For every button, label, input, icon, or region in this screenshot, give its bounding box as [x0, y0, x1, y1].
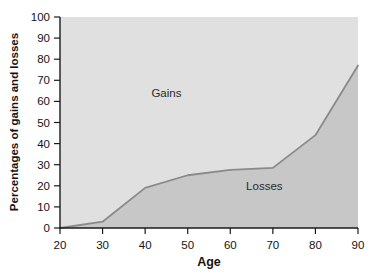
y-tick-label: 90: [37, 32, 50, 44]
chart-figure: 0102030405060708090100 2030405060708090 …: [0, 0, 383, 279]
x-tick-label: 90: [352, 239, 365, 251]
x-axis-title: Age: [197, 255, 221, 269]
plot-area: [60, 17, 358, 228]
x-tick-label: 50: [181, 239, 194, 251]
y-tick-label: 40: [37, 138, 50, 150]
gains-losses-area-chart: 0102030405060708090100 2030405060708090 …: [0, 0, 383, 279]
x-tick-label: 60: [224, 239, 237, 251]
region-label-losses: Losses: [246, 180, 283, 192]
y-tick-label: 70: [37, 74, 50, 86]
y-tick-label: 60: [37, 95, 50, 107]
x-tick-label: 20: [54, 239, 67, 251]
x-tick-label: 30: [96, 239, 109, 251]
y-tick-label: 30: [37, 159, 50, 171]
y-axis-title: Percentages of gains and losses: [8, 33, 20, 211]
y-tick-label: 10: [37, 201, 50, 213]
y-tick-label: 20: [37, 180, 50, 192]
x-tick-label: 70: [266, 239, 279, 251]
x-tick-label: 40: [139, 239, 152, 251]
y-tick-label: 80: [37, 53, 50, 65]
y-tick-label: 0: [44, 222, 50, 234]
x-tick-label: 80: [309, 239, 322, 251]
y-tick-label: 50: [37, 117, 50, 129]
y-tick-label: 100: [31, 11, 50, 23]
region-label-gains: Gains: [151, 87, 181, 99]
